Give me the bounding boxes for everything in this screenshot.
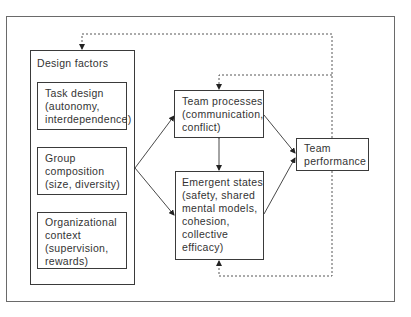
group-composition-label: Group composition (size, diversity) <box>45 152 120 191</box>
feedback-to-team-processes <box>219 75 332 89</box>
design-factors-title: Design factors <box>37 57 108 70</box>
emergent-states-box: Emergent states (safety, shared mental m… <box>175 171 264 260</box>
task-design-box: Task design (autonomy, interdependence) <box>37 82 127 130</box>
arrow-design-to-emergent <box>135 168 174 215</box>
arrow-processes-to-performance <box>264 115 295 153</box>
group-composition-box: Group composition (size, diversity) <box>37 147 127 195</box>
team-processes-box: Team processes (communication, conflict) <box>174 90 264 138</box>
organizational-context-label: Organizational context (supervision, rew… <box>45 216 117 268</box>
team-processes-label: Team processes (communication, conflict) <box>182 95 264 134</box>
team-performance-label: Team performance <box>304 142 366 168</box>
team-performance-box: Team performance <box>296 138 369 171</box>
arrow-emergent-to-performance <box>264 158 295 214</box>
emergent-states-label: Emergent states (safety, shared mental m… <box>182 176 263 254</box>
organizational-context-box: Organizational context (supervision, rew… <box>37 212 127 269</box>
arrow-design-to-processes <box>135 116 174 168</box>
task-design-label: Task design (autonomy, interdependence) <box>45 87 132 126</box>
